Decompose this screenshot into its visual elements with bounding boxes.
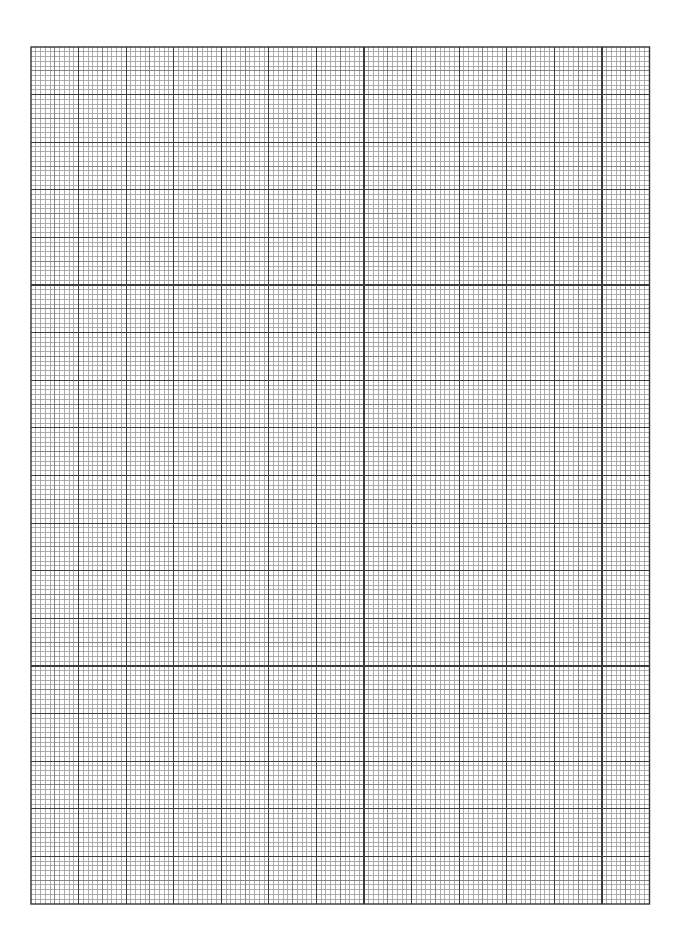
graph-grid <box>29 45 652 906</box>
graph-paper-sheet <box>0 0 677 941</box>
